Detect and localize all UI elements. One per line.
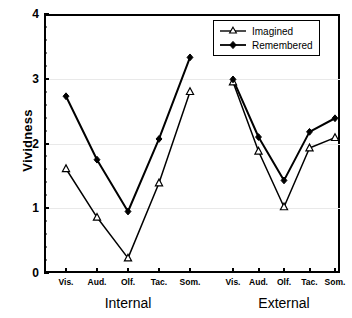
- x-tick-label: Som.: [180, 277, 201, 287]
- data-point-remembered: [187, 54, 193, 61]
- x-tick-label: Vis.: [59, 277, 74, 287]
- x-tick-label: Vis.: [226, 277, 241, 287]
- series-line-remembered-internal: [66, 57, 190, 211]
- data-point-imagined: [255, 147, 262, 154]
- group-label-external: External: [258, 295, 309, 311]
- y-tick-label-1: 1: [32, 202, 39, 214]
- x-tick-label: Tac.: [151, 277, 167, 287]
- y-tick-label-2: 2: [32, 138, 39, 150]
- data-point-imagined: [62, 165, 69, 172]
- data-point-imagined: [280, 203, 287, 210]
- series-line-remembered-external: [233, 79, 335, 180]
- legend-marker-filled-diamond: [218, 39, 248, 51]
- x-tick-label: Olf.: [121, 277, 135, 287]
- y-tick-label-4: 4: [32, 8, 39, 20]
- x-tick-label: Olf.: [277, 277, 291, 287]
- x-tick-label: Tac.: [301, 277, 317, 287]
- x-tick-label: Aud.: [249, 277, 268, 287]
- group-label-internal: Internal: [105, 295, 152, 311]
- chart-figure: Vividness 01234 Vis.Aud.Olf.Tac.Som.Vis.…: [0, 0, 352, 318]
- x-tick-label: Aud.: [88, 277, 107, 287]
- legend-item-remembered: Remembered: [218, 38, 313, 52]
- legend-label-remembered: Remembered: [252, 40, 313, 51]
- legend-marker-open-triangle: [218, 25, 248, 37]
- data-point-imagined: [331, 134, 338, 141]
- data-point-imagined: [186, 88, 193, 95]
- data-point-imagined: [155, 179, 162, 186]
- y-tick-label-3: 3: [32, 73, 39, 85]
- data-point-remembered: [332, 115, 338, 122]
- x-tick-label: Som.: [325, 277, 346, 287]
- legend-item-imagined: Imagined: [218, 24, 313, 38]
- series-line-imagined-internal: [66, 92, 190, 258]
- y-tick-label-0: 0: [32, 267, 39, 279]
- legend-label-imagined: Imagined: [252, 26, 293, 37]
- chart-legend: Imagined Remembered: [213, 20, 320, 56]
- series-line-imagined-external: [233, 82, 335, 207]
